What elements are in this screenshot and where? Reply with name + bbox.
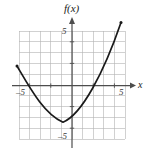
x-axis-tick-label-5: 5 (119, 88, 124, 97)
function-axis-label: f(x) (64, 3, 79, 14)
parabola-graph-figure: f(x) x 5 –5 5 –5 (0, 0, 150, 154)
y-axis-tick-label-neg5: –5 (58, 132, 67, 141)
function-curve (16, 21, 123, 122)
x-axis-label: x (138, 80, 142, 90)
y-axis-tick-label-5: 5 (62, 27, 67, 36)
curve-endpoint-right (120, 21, 123, 24)
curve-endpoint-left (16, 65, 19, 68)
graph-canvas (0, 0, 150, 154)
x-axis-tick-label-neg5: –5 (16, 88, 25, 97)
y-axis (69, 17, 75, 148)
